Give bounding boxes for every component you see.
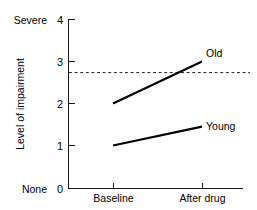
y-anchor-label-severe: Severe [14, 14, 47, 26]
x-tick-label-after-drug: After drug [179, 192, 225, 204]
line-chart: 4 3 2 1 0 Severe None Baseline After dru… [0, 0, 257, 210]
series-line-old [113, 62, 202, 104]
y-axis-title: Level of impairment [14, 58, 26, 150]
y-anchor-label-none: None [22, 183, 47, 195]
y-tick-label-1: 1 [57, 140, 63, 152]
y-tick-label-0: 0 [57, 183, 63, 195]
y-tick-label-2: 2 [57, 98, 63, 110]
series-label-old: Old [206, 47, 223, 59]
series-line-young [113, 127, 202, 146]
y-tick-label-3: 3 [57, 56, 63, 68]
series-label-young: Young [206, 120, 236, 132]
chart-screenshot: 4 3 2 1 0 Severe None Baseline After dru… [0, 0, 257, 210]
x-tick-label-baseline: Baseline [93, 192, 133, 204]
y-tick-label-4: 4 [57, 14, 63, 26]
